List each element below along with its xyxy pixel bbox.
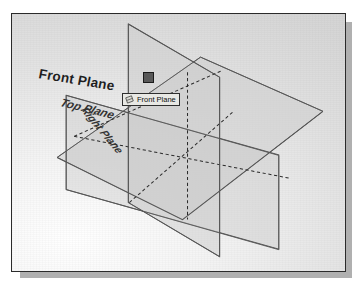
plane-tooltip-text: Front Plane	[137, 94, 176, 105]
screenshot-root: Front Plane Top Plane Right Plane Front …	[0, 0, 364, 287]
plane-tooltip: Front Plane	[122, 93, 180, 106]
front-plane-face[interactable]	[128, 24, 219, 257]
reference-planes-drawing	[12, 14, 345, 271]
cad-viewport-frame: Front Plane Top Plane Right Plane Front …	[11, 13, 346, 272]
plane-icon	[125, 95, 134, 104]
plane-selection-handle[interactable]	[143, 72, 154, 83]
